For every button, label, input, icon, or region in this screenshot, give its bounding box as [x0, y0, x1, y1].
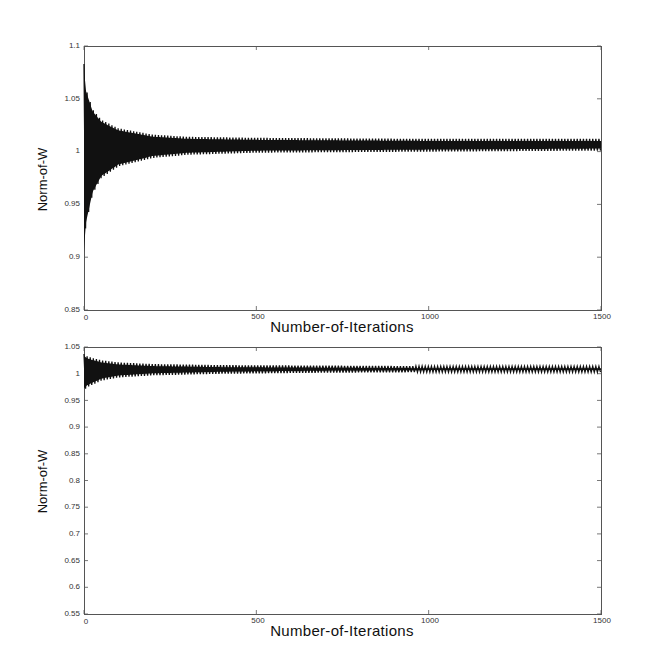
bottom-ytick-label: 1: [40, 369, 80, 378]
bottom-ytick-label: 1.05: [40, 342, 80, 351]
bottom-xtick-label: 0: [66, 617, 106, 626]
bottom-y-axis-label: Norm-of-W: [35, 432, 50, 532]
bottom-chart-plot: [0, 0, 653, 670]
bottom-xtick-label: 1500: [582, 616, 622, 625]
bottom-x-axis-label: Number-of-Iterations: [192, 622, 492, 639]
bottom-ytick-label: 0.95: [40, 396, 80, 405]
bottom-ytick-label: 0.6: [40, 582, 80, 591]
bottom-ytick-label: 0.65: [40, 556, 80, 565]
bottom-ytick-label: 0.9: [40, 422, 80, 431]
